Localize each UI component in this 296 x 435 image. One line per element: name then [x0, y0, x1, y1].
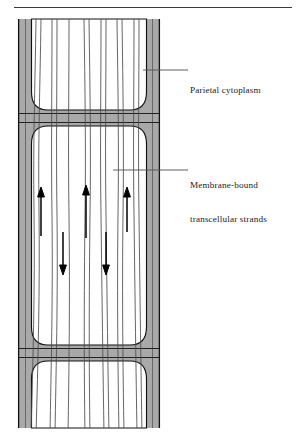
parietal-cytoplasm-label-line-1: Parietal cytoplasm — [190, 85, 261, 96]
transcellular-strands-label-line-1: Membrane-bound — [190, 180, 267, 191]
parietal-cytoplasm-label: Parietal cytoplasm — [190, 63, 261, 119]
transcellular-strands-label: Membrane-bound transcellular strands — [190, 158, 267, 248]
figure-root: Parietal cytoplasm Membrane-bound transc… — [0, 0, 296, 435]
transcellular-strands-label-line-2: transcellular strands — [190, 214, 267, 225]
